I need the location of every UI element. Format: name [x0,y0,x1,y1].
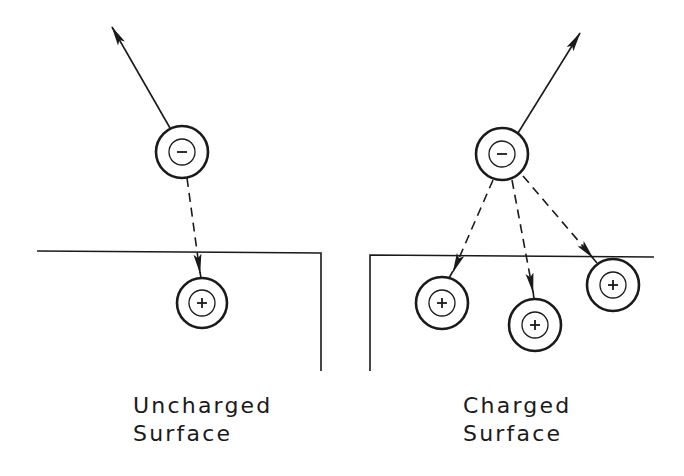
negative-ion-icon [156,126,208,178]
label-line-2: Surface [463,420,571,448]
positive-ion-icon [509,299,561,351]
label-line-2: Surface [133,420,273,448]
attraction-arrow [523,176,597,263]
ion-surface-diagram [0,0,684,476]
charged-surface-label: Charged Surface [463,392,571,448]
attraction-arrow [187,178,201,278]
label-line-1: Charged [463,392,571,420]
positive-ion-icon [416,277,468,329]
panel-charged [370,33,654,371]
attraction-arrow [449,180,493,278]
positive-ion-icon [587,259,639,311]
attraction-arrow [512,180,534,299]
label-line-1: Uncharged [133,392,273,420]
panel-uncharged [37,27,321,371]
escape-arrow-right [518,33,580,133]
uncharged-surface-label: Uncharged Surface [133,392,273,448]
escape-arrow-left [112,27,170,128]
negative-ion-icon [476,128,528,180]
positive-ion-icon [177,278,227,328]
